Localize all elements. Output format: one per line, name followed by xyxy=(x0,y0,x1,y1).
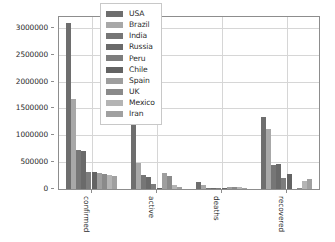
legend-item[interactable]: Russia xyxy=(106,42,155,53)
y-tick-mark xyxy=(51,27,54,28)
legend-item[interactable]: India xyxy=(106,30,155,41)
x-tick-mark xyxy=(91,190,92,193)
gridline-horizontal xyxy=(59,82,319,83)
legend-swatch-icon xyxy=(106,78,123,84)
gridline-horizontal xyxy=(59,135,319,136)
x-tick-label: deaths xyxy=(212,196,221,221)
legend-item[interactable]: UK xyxy=(106,86,155,97)
y-tick-label: 500000 xyxy=(20,157,48,166)
x-axis: confirmedactivedeathsrecovered xyxy=(58,190,320,242)
y-tick-label: 3000000 xyxy=(16,22,48,31)
legend-label: Mexico xyxy=(129,99,155,107)
y-tick-label: 2000000 xyxy=(16,76,48,85)
legend-label: Chile xyxy=(129,66,148,74)
y-axis: 0500000100000015000002000000250000030000… xyxy=(0,16,54,190)
legend-swatch-icon xyxy=(106,67,123,73)
legend-swatch-icon xyxy=(106,22,123,28)
legend-item[interactable]: Mexico xyxy=(106,98,155,109)
x-tick-mark xyxy=(156,190,157,193)
y-tick-mark xyxy=(51,81,54,82)
y-tick-mark xyxy=(51,54,54,55)
x-tick-label: active xyxy=(147,196,156,218)
legend-item[interactable]: Iran xyxy=(106,109,155,120)
x-tick-label: confirmed xyxy=(82,196,91,232)
y-tick-mark xyxy=(51,188,54,189)
bar-chart-figure: 0500000100000015000002000000250000030000… xyxy=(0,0,335,242)
gridline-horizontal xyxy=(59,28,319,29)
bar xyxy=(242,188,247,189)
gridline-horizontal xyxy=(59,55,319,56)
y-tick-mark xyxy=(51,161,54,162)
legend-label: Brazil xyxy=(129,21,150,29)
bar xyxy=(307,179,312,189)
gridline-horizontal xyxy=(59,162,319,163)
legend-swatch-icon xyxy=(106,11,123,17)
legend-label: Russia xyxy=(129,43,153,51)
chart-legend: USABrazilIndiaRussiaPeruChileSpainUKMexi… xyxy=(100,3,162,125)
y-tick-label: 0 xyxy=(43,184,48,193)
legend-label: USA xyxy=(129,10,144,18)
x-tick-mark xyxy=(286,190,287,193)
y-tick-label: 1000000 xyxy=(16,130,48,139)
legend-swatch-icon xyxy=(106,111,123,117)
gridline-horizontal xyxy=(59,108,319,109)
legend-item[interactable]: Peru xyxy=(106,53,155,64)
plot-area xyxy=(58,16,320,190)
legend-swatch-icon xyxy=(106,89,123,95)
x-tick-label: recovered xyxy=(277,196,286,232)
y-tick-mark xyxy=(51,107,54,108)
y-tick-label: 1500000 xyxy=(16,103,48,112)
legend-item[interactable]: USA xyxy=(106,8,155,19)
legend-label: Spain xyxy=(129,77,150,85)
gridline-vertical xyxy=(222,17,223,189)
bar xyxy=(112,176,117,189)
legend-swatch-icon xyxy=(106,55,123,61)
y-tick-label: 2500000 xyxy=(16,49,48,58)
legend-item[interactable]: Brazil xyxy=(106,19,155,30)
legend-swatch-icon xyxy=(106,44,123,50)
legend-swatch-icon xyxy=(106,33,123,39)
x-tick-mark xyxy=(221,190,222,193)
legend-label: Iran xyxy=(129,110,143,118)
legend-label: UK xyxy=(129,88,139,96)
legend-label: India xyxy=(129,32,147,40)
legend-item[interactable]: Spain xyxy=(106,75,155,86)
gridline-vertical xyxy=(92,17,93,189)
legend-item[interactable]: Chile xyxy=(106,64,155,75)
y-tick-mark xyxy=(51,134,54,135)
gridline-vertical xyxy=(287,17,288,189)
legend-label: Peru xyxy=(129,55,146,63)
bar xyxy=(177,187,182,189)
legend-swatch-icon xyxy=(106,100,123,106)
bar xyxy=(287,174,292,189)
